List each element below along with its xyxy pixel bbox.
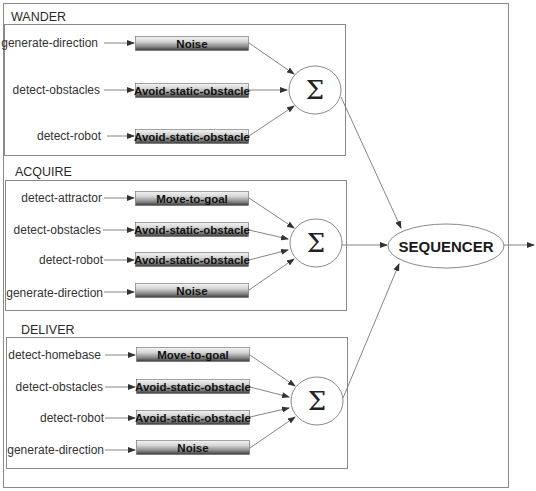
input-label: detect-obstacles xyxy=(16,380,103,394)
sigma-icon: Σ xyxy=(308,386,326,416)
svg-text:Avoid-static-obstacle: Avoid-static-obstacle xyxy=(135,412,251,424)
behavior-button[interactable]: Noise xyxy=(136,284,249,298)
behavior-button[interactable]: Avoid-static-obstacle xyxy=(135,380,251,394)
input-label: detect-robot xyxy=(40,411,105,425)
sequencer-node: SEQUENCER xyxy=(388,224,504,268)
sigma-icon: Σ xyxy=(306,75,324,105)
behavior-button[interactable]: Avoid-static-obstacle xyxy=(135,411,251,425)
deliver-to-sequencer xyxy=(343,264,399,398)
svg-text:Move-to-goal: Move-to-goal xyxy=(157,349,229,361)
input-label: generate-direction xyxy=(7,443,104,457)
sum-node: Σ xyxy=(289,66,341,114)
wander-to-sequencer xyxy=(341,97,401,228)
svg-text:Noise: Noise xyxy=(177,442,208,454)
group-deliver: DELIVER detect-homebase Move-to-goal det… xyxy=(7,323,348,469)
behavior-button[interactable]: Avoid-static-obstacle xyxy=(134,130,250,144)
behavior-diagram: WANDER generate-direction Noise detect-o… xyxy=(0,0,536,491)
sigma-icon: Σ xyxy=(307,228,325,258)
svg-text:Avoid-static-obstacle: Avoid-static-obstacle xyxy=(134,85,250,97)
svg-text:Noise: Noise xyxy=(176,38,207,50)
group-title: WANDER xyxy=(11,10,66,24)
behavior-button[interactable]: Noise xyxy=(137,441,250,455)
svg-text:Avoid-static-obstacle: Avoid-static-obstacle xyxy=(135,381,251,393)
behavior-button[interactable]: Avoid-static-obstacle xyxy=(134,223,250,237)
sequencer-label: SEQUENCER xyxy=(398,238,493,255)
svg-text:Noise: Noise xyxy=(176,285,207,297)
group-title: DELIVER xyxy=(21,323,75,337)
behavior-button[interactable]: Move-to-goal xyxy=(136,192,249,206)
input-label: detect-attractor xyxy=(21,191,102,205)
input-label: detect-obstacles xyxy=(14,223,101,237)
svg-text:Avoid-static-obstacle: Avoid-static-obstacle xyxy=(134,254,250,266)
svg-text:Move-to-goal: Move-to-goal xyxy=(156,193,228,205)
input-label: detect-homebase xyxy=(8,348,101,362)
svg-text:Avoid-static-obstacle: Avoid-static-obstacle xyxy=(134,224,250,236)
behavior-button[interactable]: Avoid-static-obstacle xyxy=(134,253,250,267)
behavior-button[interactable]: Noise xyxy=(136,37,249,51)
input-label: generate-direction xyxy=(6,286,103,300)
sum-node: Σ xyxy=(291,377,343,425)
group-wander: WANDER generate-direction Noise detect-o… xyxy=(1,10,345,156)
input-label: generate-direction xyxy=(1,36,98,50)
input-label: detect-obstacles xyxy=(13,83,100,97)
input-label: detect-robot xyxy=(37,129,102,143)
svg-text:Avoid-static-obstacle: Avoid-static-obstacle xyxy=(134,131,250,143)
group-acquire: ACQUIRE detect-attractor Move-to-goal de… xyxy=(6,165,347,311)
behavior-button[interactable]: Move-to-goal xyxy=(137,348,250,362)
behavior-button[interactable]: Avoid-static-obstacle xyxy=(134,84,250,98)
group-title: ACQUIRE xyxy=(15,165,72,179)
sum-node: Σ xyxy=(290,219,342,267)
input-label: detect-robot xyxy=(39,253,104,267)
